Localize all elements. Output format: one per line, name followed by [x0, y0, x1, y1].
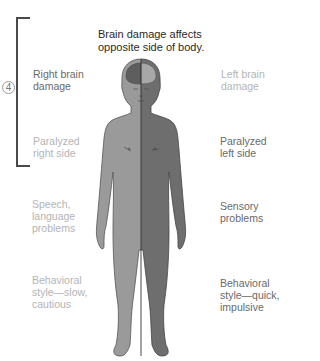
label-left-brain-damage: Left brain damage	[221, 68, 265, 92]
label-sensory-problems: Sensory problems	[220, 200, 263, 224]
label-right-brain-damage: Right brain damage	[33, 68, 84, 92]
label-speech-language-problems: Speech, language problems	[32, 198, 75, 234]
label-paralyzed-right-side: Paralyzed right side	[33, 135, 80, 159]
label-behavioral-style-quick: Behavioral style—quick, impulsive	[220, 277, 280, 313]
label-behavioral-style-slow: Behavioral style—slow, cautious	[32, 274, 87, 310]
label-paralyzed-left-side: Paralyzed left side	[220, 135, 267, 159]
